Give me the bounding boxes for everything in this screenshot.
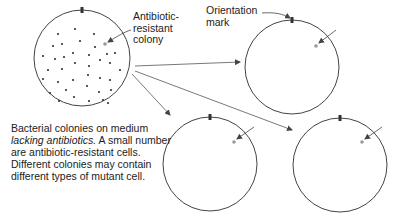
resistant-colony <box>360 140 364 144</box>
bacterial-colonies <box>42 28 121 104</box>
figure-caption: Bacterial colonies on medium lacking ant… <box>11 122 181 182</box>
resistant-colony <box>232 140 236 144</box>
caption-italic-text: lacking antibiotics. <box>11 134 96 146</box>
arrow-to-bottom-middle <box>132 74 170 115</box>
antibiotic-resistant-colony-label: Antibiotic- resistant colony <box>133 11 179 46</box>
label-line: colony <box>133 34 179 46</box>
arrow-to-top-right <box>135 62 240 66</box>
resistant-colony-pointer <box>237 127 254 139</box>
label-line: mark <box>206 17 257 29</box>
replica-plate-bottom-right <box>293 115 387 212</box>
caption-text: Bacterial colonies on medium <box>11 122 148 134</box>
orientation-mark-pointer <box>262 13 290 18</box>
orientation-mark-icon <box>81 7 84 13</box>
resistant-colony-pointer <box>108 30 131 42</box>
resistant-colony-pointer <box>365 127 382 139</box>
orientation-mark-label: Orientation mark <box>206 5 257 28</box>
orientation-mark-icon <box>291 17 294 23</box>
label-line: Orientation <box>206 5 257 17</box>
label-line: Antibiotic- <box>133 11 179 23</box>
replica-plate-top-right <box>245 17 339 114</box>
replica-plating-diagram <box>0 0 397 223</box>
resistant-colony-pointer <box>319 30 336 43</box>
orientation-mark-icon <box>339 115 342 121</box>
master-plate <box>34 7 130 106</box>
resistant-colony <box>103 42 107 46</box>
resistant-colony <box>314 44 318 48</box>
orientation-mark-icon <box>209 114 212 120</box>
